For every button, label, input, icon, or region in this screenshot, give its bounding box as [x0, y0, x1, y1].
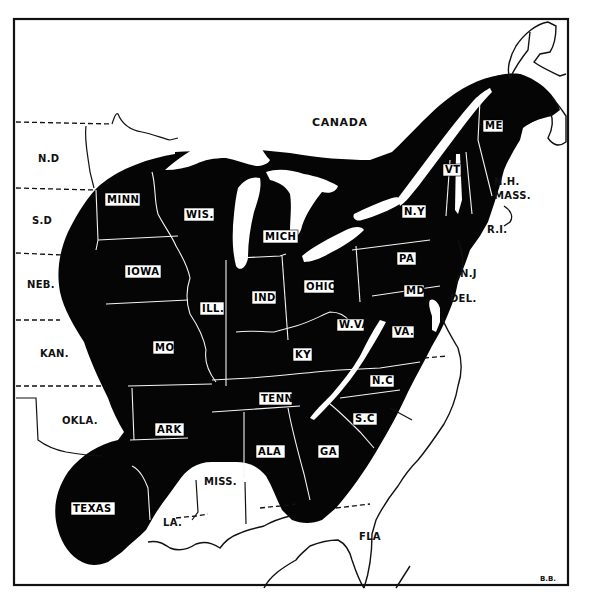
label-iowa: IOWA: [125, 265, 161, 278]
label-fla: FLA: [359, 531, 381, 542]
svg-text:TENN: TENN: [261, 393, 293, 404]
label-me: ME: [483, 120, 503, 132]
label-ind: IND: [252, 291, 276, 304]
svg-text:PA: PA: [399, 253, 414, 264]
svg-text:MD: MD: [406, 285, 425, 296]
label-sd: S.D: [32, 215, 52, 226]
label-neb: NEB.: [27, 279, 55, 290]
svg-text:VT: VT: [445, 164, 461, 175]
label-tenn: TENN: [259, 392, 293, 405]
label-ny: N.Y: [402, 205, 426, 218]
svg-text:VA.: VA.: [394, 326, 414, 337]
label-md: MD: [404, 285, 425, 297]
label-wis: WIS.: [184, 208, 214, 221]
svg-text:IOWA: IOWA: [127, 266, 160, 277]
label-kan: KAN.: [40, 348, 69, 359]
label-mo: MO: [153, 341, 174, 354]
label-mich: MICH: [263, 230, 298, 243]
label-ala: ALA: [256, 445, 285, 458]
svg-text:MO: MO: [155, 342, 174, 353]
label-ill: ILL.: [200, 302, 224, 315]
svg-text:MINN: MINN: [107, 194, 139, 205]
svg-text:KY: KY: [295, 349, 311, 360]
svg-text:N.Y: N.Y: [404, 206, 425, 217]
svg-text:ME: ME: [485, 120, 503, 131]
svg-text:GA: GA: [320, 446, 337, 457]
range-area: [55, 74, 552, 565]
label-wva: W.VA: [337, 319, 370, 331]
svg-text:OHIO: OHIO: [306, 281, 337, 292]
svg-text:ILL.: ILL.: [202, 303, 224, 314]
label-la: LA.: [163, 517, 182, 528]
svg-text:N.C: N.C: [372, 375, 393, 386]
label-nh: N.H.: [494, 176, 520, 187]
label-ohio: OHIO: [304, 280, 337, 293]
label-nj: N.J: [460, 268, 477, 279]
label-ky: KY: [293, 348, 312, 361]
label-okla: OKLA.: [62, 415, 98, 426]
label-nc: N.C: [370, 375, 394, 387]
artist-signature: B.B.: [540, 575, 556, 583]
svg-text:W.VA: W.VA: [339, 319, 370, 330]
range-map: CANADA N.D S.D NEB. KAN. OKLA. MISS. LA.…: [0, 0, 592, 598]
label-miss: MISS.: [204, 476, 237, 487]
svg-text:TEXAS: TEXAS: [73, 503, 112, 514]
label-texas: TEXAS: [71, 502, 115, 515]
label-vt: VT: [443, 164, 461, 176]
label-minn: MINN: [105, 193, 140, 206]
label-mass: MASS.: [494, 190, 531, 201]
svg-text:WIS.: WIS.: [186, 209, 214, 220]
label-ark: ARK: [155, 423, 184, 436]
label-va: VA.: [392, 326, 414, 338]
label-pa: PA: [397, 252, 416, 265]
label-canada: CANADA: [312, 116, 368, 129]
label-del: DEL.: [450, 293, 477, 304]
label-ga: GA: [318, 445, 339, 458]
label-sc: S.C: [353, 413, 377, 425]
svg-text:S.C: S.C: [355, 413, 375, 424]
label-nd: N.D: [38, 153, 59, 164]
svg-text:MICH: MICH: [265, 231, 296, 242]
svg-text:ARK: ARK: [157, 424, 182, 435]
label-ri: R.I.: [487, 224, 507, 235]
svg-text:IND: IND: [254, 292, 276, 303]
svg-text:ALA: ALA: [258, 446, 281, 457]
